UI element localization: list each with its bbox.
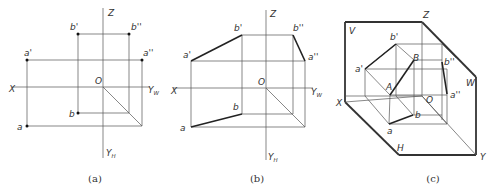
panel-a-three-view-projection: b'b''a'a''baZXOYWYH(a) (8, 8, 160, 184)
projection-line (396, 44, 414, 60)
projection-figure: b'b''a'a''baZXOYWYH(a) b'b''a'a''baZXOYW… (0, 0, 491, 193)
axis-label-v: V (349, 26, 356, 36)
point-label: B (413, 53, 419, 63)
point-marker (128, 33, 131, 36)
point-label: a' (183, 50, 191, 60)
axis-label-w: W (466, 78, 476, 88)
axis-label-x: X (335, 98, 343, 108)
projection-line (389, 95, 390, 124)
point-label: a (387, 126, 393, 136)
segment-ab-projection (293, 35, 305, 61)
panel-caption: (a) (88, 173, 102, 184)
point-label: b (415, 110, 421, 120)
projection-line (103, 87, 142, 126)
projection-line (345, 96, 422, 102)
point-marker (26, 59, 29, 62)
point-label: b'' (293, 23, 304, 33)
point-label: a'' (143, 48, 153, 58)
point-label: b' (234, 23, 242, 33)
segment-ab-projection (365, 44, 396, 69)
point-label: b' (70, 22, 78, 32)
axis-label-z: Z (107, 8, 115, 18)
projection-line (396, 96, 413, 115)
projection-line (442, 44, 456, 58)
projection-line (365, 96, 389, 124)
axis-label-yh: YH (106, 148, 116, 159)
point-label: a' (355, 64, 363, 74)
point-label: a (180, 123, 186, 133)
axis-label-y: Y (480, 152, 487, 162)
axis-label-yw: YW (148, 85, 160, 96)
point-label: a'' (308, 52, 318, 62)
axis-label-yh: YH (268, 152, 278, 163)
point-label: a'' (450, 90, 460, 100)
axis-label-yw: YW (311, 87, 323, 98)
segment-ab-projection (191, 114, 242, 127)
axis-label-x: X (170, 86, 178, 96)
projection-line (266, 88, 305, 127)
segment-ab-projection (191, 35, 242, 61)
point-label: A (385, 82, 392, 92)
axis-label-x: X (8, 84, 16, 94)
point-label: b (69, 109, 75, 119)
segment-ab-projection (389, 115, 413, 124)
panel-caption: (c) (426, 173, 440, 184)
point-label: b' (390, 32, 398, 42)
axis-label-h: H (397, 143, 404, 153)
segment-ab-projection (390, 60, 414, 95)
point-label: a' (24, 48, 32, 58)
axis-label-o: O (258, 77, 265, 87)
panel-caption: (b) (250, 173, 264, 184)
panel-b-line-projection: b'b''a'a''baZXOYWYH(b) (170, 9, 323, 184)
point-marker (77, 112, 80, 115)
point-marker (26, 125, 29, 128)
axis-label-o: O (426, 95, 433, 105)
panel-c-isometric-projection: b'Ba'Ab''a''baZXOVWHY(c) (335, 10, 487, 184)
point-marker (141, 59, 144, 62)
axis-label-o: O (95, 76, 102, 86)
point-label: b'' (131, 22, 142, 32)
point-label: b (233, 102, 239, 112)
point-label: b'' (444, 57, 455, 67)
point-label: a (17, 122, 23, 132)
point-marker (77, 33, 80, 36)
axis-label-z: Z (422, 10, 430, 20)
axis-label-z: Z (269, 9, 277, 19)
